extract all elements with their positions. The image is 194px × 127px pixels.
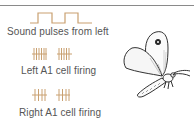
left-a1-label: Left A1 cell firing [21,65,96,76]
right-spike-train [32,88,82,102]
sound-pulse-waveform [30,11,94,25]
left-spike-train [32,47,82,61]
pulse-label: Sound pulses from left [7,26,109,37]
butterfly-icon [118,28,194,104]
top-rule [0,5,194,6]
right-a1-label: Right A1 cell firing [19,107,101,118]
